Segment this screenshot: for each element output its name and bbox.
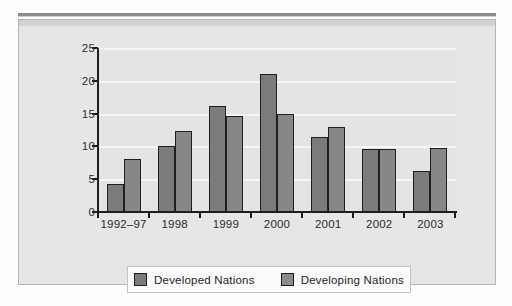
bar-developed-2003: [413, 171, 430, 212]
legend-label-developed: Developed Nations: [154, 274, 255, 286]
bars-layer: [98, 48, 456, 212]
x-axis-label: 2002: [366, 218, 392, 230]
bar-developed-2002: [362, 149, 379, 212]
bar-developed-2000: [260, 74, 277, 212]
bar-developed-1992–97: [107, 184, 124, 212]
figure-top-band: [19, 20, 495, 26]
bar-developing-2000: [277, 114, 294, 212]
bar-developed-1999: [209, 106, 226, 212]
bar-developing-1992–97: [124, 159, 141, 212]
bar-developed-2001: [311, 137, 328, 212]
y-tick-label: 15: [55, 108, 95, 120]
figure-root: 25 20 15 10 5 0 1992–9719981999200020012…: [0, 0, 512, 306]
bar-developing-2002: [379, 149, 396, 212]
y-tick-label: 20: [55, 75, 95, 87]
bar-developing-1999: [226, 116, 243, 212]
legend-swatch-developing-icon: [281, 273, 294, 286]
bar-developing-1998: [175, 131, 192, 212]
x-axis-label: 1992–97: [100, 218, 146, 230]
bar-developing-2003: [430, 148, 447, 212]
chart-figure-box: 25 20 15 10 5 0 1992–9719981999200020012…: [18, 19, 496, 285]
y-tick-label: 25: [55, 42, 95, 54]
chart-legend: Developed Nations Developing Nations: [127, 266, 411, 293]
x-axis-labels: 1992–97199819992000200120022003: [98, 218, 456, 238]
y-tick-label: 5: [55, 173, 95, 185]
top-rule-secondary-decoration: [18, 16, 496, 17]
x-axis-label: 1999: [213, 218, 239, 230]
bar-developed-1998: [158, 146, 175, 212]
x-axis-label: 2000: [264, 218, 290, 230]
plot-area: 25 20 15 10 5 0: [77, 48, 477, 238]
legend-item-developed: Developed Nations: [134, 273, 255, 286]
y-tick-label: 10: [55, 140, 95, 152]
x-axis-label: 1998: [162, 218, 188, 230]
bar-developing-2001: [328, 127, 345, 212]
x-axis-label: 2003: [417, 218, 443, 230]
legend-label-developing: Developing Nations: [301, 274, 404, 286]
x-axis-label: 2001: [315, 218, 341, 230]
legend-swatch-developed-icon: [134, 273, 147, 286]
y-tick-label: 0: [55, 206, 95, 218]
legend-item-developing: Developing Nations: [281, 273, 404, 286]
